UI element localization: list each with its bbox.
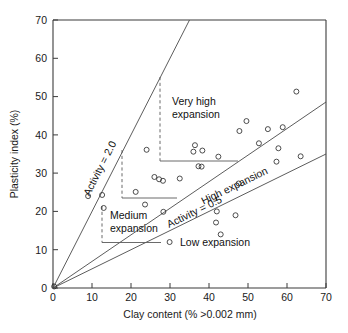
- data-point: [143, 202, 148, 207]
- data-point: [280, 125, 285, 130]
- y-tick-label-10: 10: [35, 244, 47, 256]
- activity-2-label: Activity = 2.0: [81, 139, 119, 198]
- data-point: [199, 164, 204, 169]
- low-expansion-label: Low expansion: [180, 236, 250, 248]
- data-point: [167, 240, 172, 245]
- data-point: [192, 143, 197, 148]
- high-expansion-label: High expansion: [199, 164, 269, 207]
- data-point: [191, 149, 196, 154]
- y-tick-label-20: 20: [35, 205, 47, 217]
- data-point: [265, 127, 270, 132]
- data-point: [276, 146, 281, 151]
- activity-2-line: [53, 20, 190, 288]
- data-point: [237, 129, 242, 134]
- y-tick-label-50: 50: [35, 90, 47, 102]
- y-axis-tick-labels: 0 10 20 30 40 50 60 70: [35, 14, 47, 294]
- y-tick-label-70: 70: [35, 14, 47, 26]
- data-point: [214, 209, 219, 214]
- very-high-expansion-label: Very high expansion: [172, 95, 220, 120]
- data-point: [214, 220, 219, 225]
- activity-mid-upper-line: [53, 102, 326, 288]
- x-tick-label-50: 50: [242, 291, 254, 303]
- data-point: [244, 119, 249, 124]
- x-tick-label-0: 0: [50, 291, 56, 303]
- x-tick-label-20: 20: [125, 291, 137, 303]
- data-point: [298, 154, 303, 159]
- data-point: [294, 89, 299, 94]
- y-tick-label-0: 0: [41, 282, 47, 294]
- data-point: [144, 147, 149, 152]
- data-point: [274, 159, 279, 164]
- x-tick-label-10: 10: [86, 291, 98, 303]
- y-tick-label-40: 40: [35, 129, 47, 141]
- y-axis-title: Plasticity index (%): [8, 110, 20, 199]
- medium-expansion-label-line2: expansion: [110, 222, 158, 234]
- x-axis-tick-labels: 0 10 20 30 40 50 60 70: [50, 291, 332, 303]
- data-point: [152, 174, 157, 179]
- data-point: [256, 141, 261, 146]
- data-point: [216, 154, 221, 159]
- y-tick-label-30: 30: [35, 167, 47, 179]
- medium-expansion-label: Medium expansion: [110, 209, 158, 234]
- very-high-expansion-label-line1: Very high: [172, 95, 216, 107]
- medium-expansion-label-line1: Medium: [110, 209, 148, 221]
- x-axis-ticks: [53, 283, 326, 288]
- x-tick-label-40: 40: [203, 291, 215, 303]
- y-axis-ticks: [53, 20, 58, 288]
- x-tick-label-60: 60: [281, 291, 293, 303]
- data-point: [177, 176, 182, 181]
- data-point: [233, 213, 238, 218]
- x-tick-label-70: 70: [320, 291, 332, 303]
- data-point: [133, 189, 138, 194]
- chart-figure: 0 10 20 30 40 50 60 70 0 10 20 30 40: [0, 0, 348, 333]
- data-point: [200, 148, 205, 153]
- x-tick-label-30: 30: [164, 291, 176, 303]
- scatter-plot-svg: 0 10 20 30 40 50 60 70 0 10 20 30 40: [0, 0, 348, 333]
- x-axis-title: Clay content (% >0.002 mm): [123, 308, 256, 320]
- y-tick-label-60: 60: [35, 52, 47, 64]
- very-high-expansion-label-line2: expansion: [172, 108, 220, 120]
